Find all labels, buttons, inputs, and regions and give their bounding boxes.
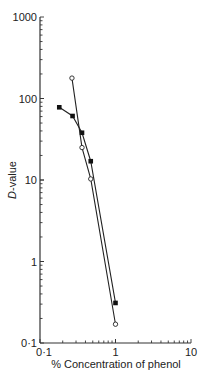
y-tick-label: 10: [25, 174, 37, 186]
axes: 0·111010010000·1110: [13, 11, 198, 358]
y-tick-label: 100: [19, 93, 37, 105]
d-value-chart: 0·111010010000·1110 D-value % Concentrat…: [0, 0, 206, 379]
filled-square-marker: [88, 159, 93, 164]
series-filled-squares: [57, 105, 118, 305]
y-tick-label: 1000: [13, 11, 37, 23]
filled-square-marker: [113, 301, 118, 306]
open-circle-marker: [70, 76, 74, 80]
x-tick-label: 0·1: [36, 346, 52, 358]
y-tick-label: 1: [31, 256, 37, 268]
y-axis-label: D-value: [6, 161, 18, 199]
series-line: [72, 78, 116, 324]
y-tick-label: 0·1: [21, 337, 37, 349]
open-circle-marker: [89, 177, 93, 181]
open-circle-marker: [113, 322, 117, 326]
open-circle-marker: [80, 145, 84, 149]
series-group: [57, 76, 118, 327]
series-open-circles: [70, 76, 118, 327]
filled-square-marker: [57, 105, 62, 110]
x-tick-label: 1: [112, 346, 118, 358]
x-tick-label: 10: [185, 346, 197, 358]
x-axis-label: % Concentration of phenol: [51, 358, 181, 370]
filled-square-marker: [70, 114, 75, 119]
